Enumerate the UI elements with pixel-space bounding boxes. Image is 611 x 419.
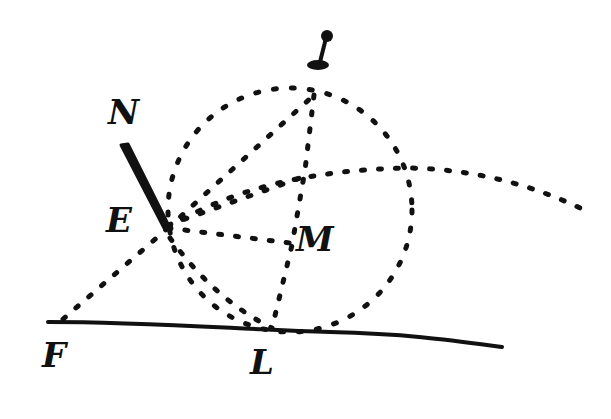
dotted-line-E-top <box>168 95 314 228</box>
pin-I-icon <box>307 30 333 70</box>
label-M: M <box>296 222 334 256</box>
geometric-diagram <box>0 0 611 419</box>
dotted-curve-E-right <box>168 168 580 228</box>
solid-line-FL <box>48 322 502 347</box>
label-E: E <box>106 203 132 237</box>
label-L: L <box>250 345 274 379</box>
dotted-line-top-L <box>272 95 314 328</box>
dotted-line-E-R <box>168 178 300 225</box>
dotted-arc-EL <box>170 238 272 328</box>
label-F: F <box>42 338 66 372</box>
label-N: N <box>108 95 139 129</box>
dotted-line-EM <box>168 228 290 243</box>
dotted-line-EF <box>62 228 168 320</box>
dotted-circle <box>168 88 412 332</box>
